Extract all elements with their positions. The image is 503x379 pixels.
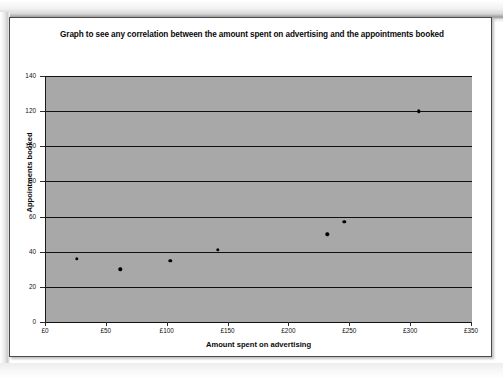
y-axis-tick [40,76,45,77]
y-axis-tick-label: 140 [10,72,36,79]
x-axis-tick [471,322,472,326]
x-axis-tick-label: £50 [89,327,123,334]
x-axis-tick [228,322,229,326]
gridline-y [46,181,472,182]
gridline-y [46,252,472,253]
chart-title: Graph to see any correlation between the… [50,29,454,42]
gridline-y [46,287,472,288]
x-axis-tick-label: £200 [271,327,305,334]
x-axis-tick [106,322,107,326]
y-axis-tick [40,252,45,253]
x-axis-tick [288,322,289,326]
gridline-y [46,146,472,147]
gridline-y [46,217,472,218]
x-axis-tick-label: £150 [211,327,245,334]
y-axis-title: Appointments booked [25,113,34,233]
x-axis-tick-label: £100 [150,327,184,334]
x-axis-tick-label: £350 [454,327,488,334]
y-axis-tick-label: 20 [10,283,36,290]
x-axis-line [45,322,472,323]
gridline-y [46,76,472,77]
x-axis-tick-label: £300 [393,327,427,334]
x-axis-tick-label: £250 [332,327,366,334]
x-axis-tick [167,322,168,326]
plot-area [45,76,472,322]
x-axis-tick [349,322,350,326]
y-axis-tick [40,181,45,182]
x-axis-tick-label: £0 [28,327,62,334]
gridline-y [46,111,472,112]
y-axis-tick [40,217,45,218]
x-axis-tick [45,322,46,326]
y-axis-tick-label: 40 [10,248,36,255]
chart-frame: Graph to see any correlation between the… [9,17,492,357]
scan-page-edge-bottom [0,363,503,379]
y-axis-tick [40,146,45,147]
x-axis-tick [410,322,411,326]
x-axis-title: Amount spent on advertising [45,340,472,349]
y-axis-tick [40,287,45,288]
y-axis-tick [40,111,45,112]
y-axis-tick-label: 0 [10,318,36,325]
